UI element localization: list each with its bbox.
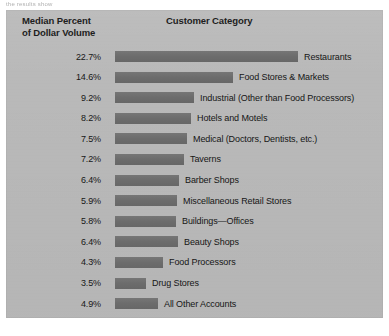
row-percent-value: 7.2% (6, 154, 101, 165)
chart-page: the results show Median Percent of Dolla… (0, 0, 389, 336)
header-median-percent: Median Percent of Dollar Volume (22, 15, 132, 38)
row-category-label: Industrial (Other than Food Processors) (200, 93, 354, 104)
chart-row: 14.6%Food Stores & Markets (6, 69, 383, 90)
row-category-label: Taverns (190, 154, 221, 165)
row-category-label: Barber Shops (185, 175, 239, 186)
chart-row: 22.7%Restaurants (6, 48, 383, 69)
chart-panel: Median Percent of Dollar Volume Customer… (6, 10, 383, 318)
header-median-percent-line1: Median Percent (22, 15, 132, 27)
row-bar (115, 236, 178, 247)
row-category-label: Beauty Shops (184, 237, 239, 248)
row-category-label: Miscellaneous Retail Stores (183, 196, 291, 207)
chart-row: 8.2%Hotels and Motels (6, 110, 383, 131)
row-percent-value: 8.2% (6, 113, 101, 124)
row-category-label: Hotels and Motels (197, 113, 267, 124)
chart-row: 6.4%Barber Shops (6, 172, 383, 193)
row-percent-value: 7.5% (6, 134, 101, 145)
row-bar (115, 51, 298, 62)
row-percent-value: 5.8% (6, 216, 101, 227)
row-category-label: Drug Stores (152, 278, 199, 289)
chart-row: 9.2%Industrial (Other than Food Processo… (6, 89, 383, 110)
row-percent-value: 5.9% (6, 196, 101, 207)
row-bar (115, 133, 187, 144)
row-category-label: All Other Accounts (164, 299, 236, 310)
row-bar (115, 298, 158, 309)
row-percent-value: 3.5% (6, 278, 101, 289)
row-percent-value: 4.3% (6, 257, 101, 268)
chart-row: 3.5%Drug Stores (6, 275, 383, 296)
row-category-label: Restaurants (304, 52, 351, 63)
row-bar (115, 175, 179, 186)
row-bar (115, 113, 191, 124)
row-bar (115, 72, 233, 83)
row-percent-value: 6.4% (6, 175, 101, 186)
row-percent-value: 14.6% (6, 72, 101, 83)
row-category-label: Food Processors (169, 257, 236, 268)
row-percent-value: 6.4% (6, 237, 101, 248)
chart-row: 5.9%Miscellaneous Retail Stores (6, 192, 383, 213)
row-category-label: Food Stores & Markets (239, 72, 329, 83)
chart-rows: 22.7%Restaurants14.6%Food Stores & Marke… (6, 48, 383, 316)
row-bar (115, 278, 146, 289)
row-bar (115, 154, 184, 165)
row-percent-value: 22.7% (6, 52, 101, 63)
chart-row: 5.8%Buildings—Offices (6, 213, 383, 234)
chart-header: Median Percent of Dollar Volume Customer… (6, 15, 383, 45)
header-customer-category: Customer Category (166, 15, 252, 27)
row-percent-value: 4.9% (6, 299, 101, 310)
row-category-label: Medical (Doctors, Dentists, etc.) (193, 134, 317, 145)
row-bar (115, 257, 163, 268)
chart-row: 4.9%All Other Accounts (6, 295, 383, 316)
chart-row: 7.5%Medical (Doctors, Dentists, etc.) (6, 130, 383, 151)
page-top-caption: the results show (6, 1, 126, 8)
chart-row: 6.4%Beauty Shops (6, 233, 383, 254)
header-median-percent-line2: of Dollar Volume (22, 27, 132, 39)
row-bar (115, 216, 176, 227)
row-bar (115, 92, 194, 103)
row-bar (115, 195, 177, 206)
row-percent-value: 9.2% (6, 93, 101, 104)
chart-row: 7.2%Taverns (6, 151, 383, 172)
chart-row: 4.3%Food Processors (6, 254, 383, 275)
row-category-label: Buildings—Offices (182, 216, 254, 227)
